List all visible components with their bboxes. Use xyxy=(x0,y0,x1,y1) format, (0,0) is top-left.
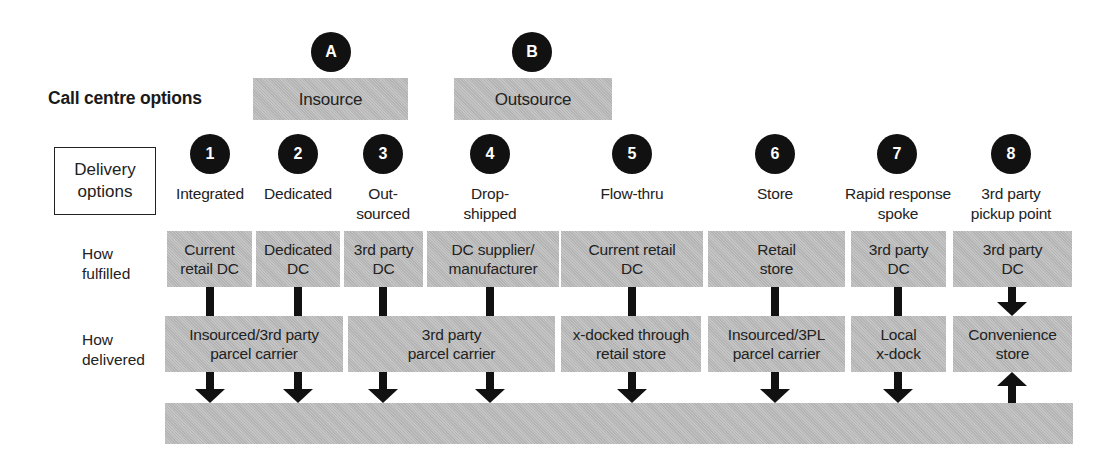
delivered-box-6: Insourced/3PL parcel carrier xyxy=(708,316,845,372)
badge-8: 8 xyxy=(991,134,1031,174)
arrow-down-icon-3 xyxy=(368,372,398,403)
arrow-down-icon-4 xyxy=(475,372,505,403)
arrow-down-icon-5 xyxy=(617,372,647,403)
delivered-box-1-2: Insourced/3rd party parcel carrier xyxy=(165,316,343,372)
badge-7: 7 xyxy=(877,134,917,174)
option-label-integrated: Integrated xyxy=(176,184,244,204)
connector-1 xyxy=(206,287,214,316)
badge-2: 2 xyxy=(278,134,318,174)
option-label-store: Store xyxy=(757,184,793,204)
arrow-down-icon-6 xyxy=(760,372,790,403)
delivery-options-title: Delivery options xyxy=(54,147,156,215)
outsource-box: Outsource xyxy=(454,78,612,120)
fulfilled-box-1: Current retail DC xyxy=(167,231,252,287)
row-label-how-fulfilled: How fulfilled xyxy=(82,244,130,284)
option-label-rapid-response-spoke: Rapid response spoke xyxy=(845,184,951,224)
fulfilled-box-2: Dedicated DC xyxy=(256,231,340,287)
delivered-box-5: x-docked through retail store xyxy=(561,316,701,372)
connector-5 xyxy=(628,287,636,316)
option-label-3rd-party-pickup-point: 3rd party pickup point xyxy=(971,184,1051,224)
fulfilled-box-5: Current retail DC xyxy=(561,231,703,287)
delivered-box-8: Convenience store xyxy=(953,316,1072,372)
option-label-dedicated: Dedicated xyxy=(264,184,332,204)
arrow-down-icon-1 xyxy=(195,372,225,403)
connector-7 xyxy=(894,287,902,316)
connector-3 xyxy=(379,287,387,316)
fulfilled-box-3: 3rd party DC xyxy=(344,231,423,287)
delivered-box-7: Local x-dock xyxy=(851,316,946,372)
delivered-box-3-4: 3rd party parcel carrier xyxy=(348,316,555,372)
arrow-down-icon-7 xyxy=(883,372,913,403)
badge-6: 6 xyxy=(755,134,795,174)
fulfilled-box-8: 3rd party DC xyxy=(953,231,1072,287)
option-label-drop-shipped: Drop- shipped xyxy=(464,184,517,224)
badge-a: A xyxy=(311,32,351,72)
connector-6 xyxy=(771,287,779,316)
fulfilled-box-4: DC supplier/ manufacturer xyxy=(427,231,559,287)
option-label-flow-thru: Flow-thru xyxy=(601,184,664,204)
badge-5: 5 xyxy=(612,134,652,174)
fulfilled-box-6: Retail store xyxy=(708,231,845,287)
customer-bar xyxy=(165,403,1073,444)
call-centre-options-title: Call centre options xyxy=(48,88,202,109)
option-label-outsourced: Out- sourced xyxy=(356,184,410,224)
badge-b: B xyxy=(512,32,552,72)
fulfilled-box-7: 3rd party DC xyxy=(851,231,946,287)
arrow-up-icon-8 xyxy=(997,372,1027,403)
arrow-down-icon-2 xyxy=(283,372,313,403)
row-label-how-delivered: How delivered xyxy=(82,330,145,370)
badge-4: 4 xyxy=(470,134,510,174)
connector-4 xyxy=(486,287,494,316)
badge-3: 3 xyxy=(363,134,403,174)
badge-1: 1 xyxy=(190,134,230,174)
insource-box: Insource xyxy=(253,78,408,120)
arrow-down-icon-8-top xyxy=(997,287,1027,316)
connector-2 xyxy=(294,287,302,316)
